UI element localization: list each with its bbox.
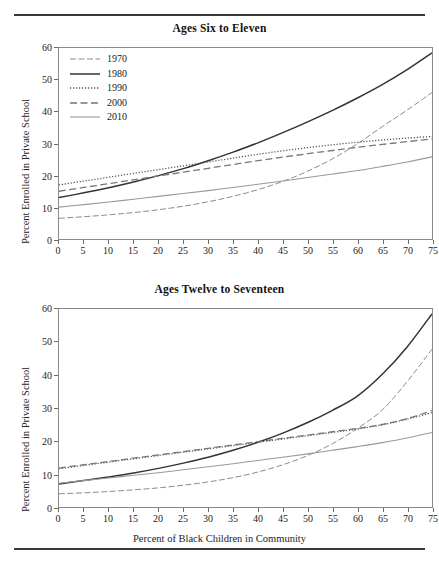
y-tick-bottom-60: 60	[26, 303, 52, 314]
x-tickmark-top-75	[433, 240, 434, 244]
x-tick-bottom-70: 70	[398, 513, 418, 524]
y-tick-top-40: 40	[26, 106, 52, 117]
x-tick-top-10: 10	[98, 245, 118, 256]
x-tickmark-bottom-45	[283, 508, 284, 512]
top-divider-rule	[14, 14, 425, 16]
x-tickmark-bottom-35	[233, 508, 234, 512]
x-tickmark-bottom-40	[258, 508, 259, 512]
x-tick-top-60: 60	[348, 245, 368, 256]
x-tickmark-bottom-75	[433, 508, 434, 512]
x-tickmark-top-70	[408, 240, 409, 244]
x-tickmark-top-25	[183, 240, 184, 244]
x-tick-bottom-20: 20	[148, 513, 168, 524]
x-axis-label: Percent of Black Children in Community	[0, 533, 439, 544]
figure-page: Ages Six to Eleven Percent Enrolled in P…	[0, 0, 439, 561]
legend-label-2000: 2000	[107, 98, 127, 108]
x-tickmark-top-45	[283, 240, 284, 244]
x-tickmark-bottom-5	[83, 508, 84, 512]
y-tick-top-50: 50	[26, 74, 52, 85]
x-tick-bottom-55: 55	[323, 513, 343, 524]
x-tickmark-top-0	[58, 240, 59, 244]
legend-item-2000[interactable]: 2000	[70, 96, 127, 111]
x-tickmark-top-10	[108, 240, 109, 244]
y-tick-bottom-0: 0	[26, 503, 52, 514]
x-tick-top-45: 45	[273, 245, 293, 256]
y-tick-top-20: 20	[26, 170, 52, 181]
x-tickmark-bottom-20	[158, 508, 159, 512]
x-tick-bottom-30: 30	[198, 513, 218, 524]
y-tick-top-10: 10	[26, 202, 52, 213]
series-line-1970	[59, 349, 432, 494]
x-tickmark-bottom-15	[133, 508, 134, 512]
x-tickmark-top-30	[208, 240, 209, 244]
x-tick-top-0: 0	[48, 245, 68, 256]
legend-label-1980: 1980	[107, 69, 127, 79]
y-tick-bottom-20: 20	[26, 436, 52, 447]
x-tickmark-bottom-50	[308, 508, 309, 512]
x-tickmark-bottom-60	[358, 508, 359, 512]
legend-item-2010[interactable]: 2010	[70, 110, 127, 125]
x-tickmark-top-40	[258, 240, 259, 244]
x-tick-top-20: 20	[148, 245, 168, 256]
chart-title-bottom: Ages Twelve to Seventeen	[0, 283, 439, 295]
x-tickmark-top-55	[333, 240, 334, 244]
legend-top: 19701980199020002010	[70, 52, 127, 125]
x-tick-bottom-15: 15	[123, 513, 143, 524]
legend-item-1980[interactable]: 1980	[70, 67, 127, 82]
legend-label-1970: 1970	[107, 54, 127, 64]
legend-item-1970[interactable]: 1970	[70, 52, 127, 67]
series-line-1980	[59, 314, 432, 484]
x-tick-bottom-40: 40	[248, 513, 268, 524]
x-tickmark-bottom-65	[383, 508, 384, 512]
y-tick-top-0: 0	[26, 235, 52, 246]
x-tickmark-top-15	[133, 240, 134, 244]
series-line-1990	[59, 136, 432, 184]
x-tick-bottom-45: 45	[273, 513, 293, 524]
x-tick-bottom-10: 10	[98, 513, 118, 524]
x-tickmark-top-60	[358, 240, 359, 244]
x-tick-top-40: 40	[248, 245, 268, 256]
x-tick-top-50: 50	[298, 245, 318, 256]
x-tickmark-top-65	[383, 240, 384, 244]
x-tickmark-bottom-70	[408, 508, 409, 512]
y-tick-bottom-30: 30	[26, 403, 52, 414]
x-tick-bottom-60: 60	[348, 513, 368, 524]
y-tick-top-60: 60	[26, 42, 52, 53]
series-line-2000	[59, 411, 432, 468]
x-tickmark-top-20	[158, 240, 159, 244]
y-tick-bottom-10: 10	[26, 469, 52, 480]
x-tick-top-65: 65	[373, 245, 393, 256]
x-tick-top-5: 5	[73, 245, 93, 256]
legend-label-1990: 1990	[107, 83, 127, 93]
x-tickmark-bottom-25	[183, 508, 184, 512]
x-tickmark-top-50	[308, 240, 309, 244]
chart-title-top: Ages Six to Eleven	[0, 22, 439, 34]
line-chart-svg-bottom	[59, 309, 432, 507]
y-tick-bottom-40: 40	[26, 369, 52, 380]
x-tick-bottom-5: 5	[73, 513, 93, 524]
x-tick-top-55: 55	[323, 245, 343, 256]
x-tick-bottom-75: 75	[423, 513, 439, 524]
legend-label-2010: 2010	[107, 112, 127, 122]
x-tick-bottom-65: 65	[373, 513, 393, 524]
x-tickmark-bottom-10	[108, 508, 109, 512]
x-tick-bottom-25: 25	[173, 513, 193, 524]
x-tick-bottom-35: 35	[223, 513, 243, 524]
y-tick-bottom-50: 50	[26, 336, 52, 347]
legend-item-1990[interactable]: 1990	[70, 81, 127, 96]
x-tick-bottom-0: 0	[48, 513, 68, 524]
x-tick-top-75: 75	[423, 245, 439, 256]
x-tick-bottom-50: 50	[298, 513, 318, 524]
x-tick-top-70: 70	[398, 245, 418, 256]
x-tickmark-bottom-0	[58, 508, 59, 512]
x-tickmark-top-5	[83, 240, 84, 244]
x-tickmark-top-35	[233, 240, 234, 244]
x-tick-top-15: 15	[123, 245, 143, 256]
bottom-divider-rule	[14, 548, 425, 550]
y-tick-top-30: 30	[26, 138, 52, 149]
x-tickmark-bottom-30	[208, 508, 209, 512]
plot-area-ages-twelve-to-seventeen	[58, 308, 433, 508]
x-tick-top-25: 25	[173, 245, 193, 256]
x-tick-top-35: 35	[223, 245, 243, 256]
x-tick-top-30: 30	[198, 245, 218, 256]
